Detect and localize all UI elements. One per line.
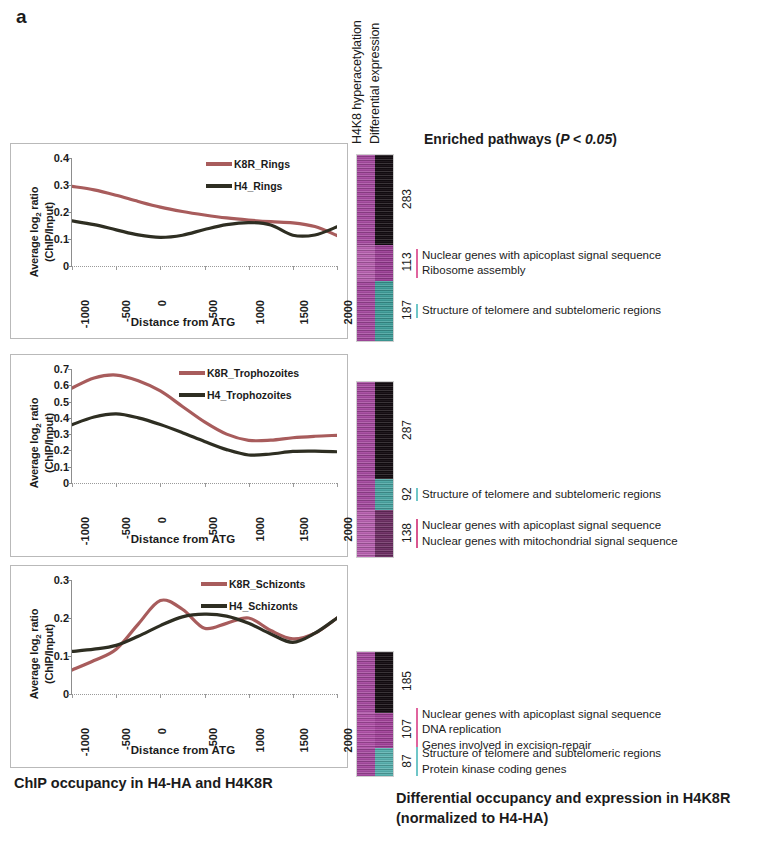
heatmap-segment-hyperacetylation <box>357 713 375 748</box>
x-tick-mark <box>160 694 161 698</box>
y-ticklabels-schizonts: 0.30.20.10 <box>39 580 69 694</box>
legend-label: H4_Rings <box>234 180 282 192</box>
x-axis-title-trophozoites: Distance from ATG <box>33 533 333 545</box>
heatmap-segment-differential-expression <box>375 713 393 748</box>
legend-item: K8R_Trophozoites <box>179 367 299 379</box>
heatmap-segment-hyperacetylation <box>357 382 375 479</box>
legend-schizonts: K8R_SchizontsH4_Schizonts <box>201 578 305 622</box>
x-ticklabels-trophozoites: -1000-5000500100015002000 <box>71 489 336 529</box>
y-tick-mark <box>68 618 72 619</box>
group-count-label: 287 <box>400 417 414 443</box>
caption-right-line1: Differential occupancy and expression in… <box>396 788 766 808</box>
group-color-bar <box>416 747 418 776</box>
y-tick-label: 0.3 <box>54 179 69 191</box>
x-tick-mark <box>337 694 338 698</box>
x-tick-mark <box>72 266 73 270</box>
enriched-title-pvalue: P < 0.05 <box>560 131 612 147</box>
heatmap-segment-differential-expression <box>375 382 393 479</box>
y-tick-label: 0.4 <box>54 152 69 164</box>
x-tick-mark <box>72 483 73 487</box>
heatmap-column-differential-expression <box>375 652 393 776</box>
heatmap-column-hyperacetylation <box>357 382 375 557</box>
caption-chip-occupancy: ChIP occupancy in H4-HA and H4K8R <box>14 775 273 791</box>
x-tick-mark <box>249 266 250 270</box>
x-axis-title-rings: Distance from ATG <box>33 316 333 328</box>
heatmap-segment-differential-expression <box>375 479 393 510</box>
y-tick-label: 0.6 <box>54 379 69 391</box>
pathway-list: Nuclear genes with apicoplast signal seq… <box>422 518 678 549</box>
x-tick-mark <box>293 694 294 698</box>
y-tick-mark <box>68 185 72 186</box>
heatmap-segment-hyperacetylation <box>357 281 375 341</box>
pathway-list: Structure of telomere and subtelomeric r… <box>422 746 661 777</box>
heatmap-segment-hyperacetylation <box>357 155 375 245</box>
legend-label: K8R_Schizonts <box>229 578 305 590</box>
x-axis-title-schizonts: Distance from ATG <box>33 744 333 756</box>
pathway-item: Nuclear genes with apicoplast signal seq… <box>422 707 661 723</box>
x-tick-label: 0 <box>156 517 168 523</box>
x-tick-mark <box>205 694 206 698</box>
group-count-label: 107 <box>400 716 414 742</box>
y-tick-mark <box>68 385 72 386</box>
group-count-label: 87 <box>400 748 414 774</box>
heatmap-rings <box>357 155 393 341</box>
heatmap-schizonts <box>357 652 393 776</box>
y-tick-label: 0.3 <box>54 574 69 586</box>
x-tick-mark <box>160 483 161 487</box>
caption-differential-occupancy: Differential occupancy and expression in… <box>396 788 766 828</box>
pathway-item: Nuclear genes with apicoplast signal seq… <box>422 518 678 534</box>
legend-label: K8R_Trophozoites <box>207 367 299 379</box>
x-tick-label: 0 <box>156 728 168 734</box>
y-ticklabels-rings: 0.40.30.20.10 <box>39 158 69 266</box>
y-tick-mark <box>68 402 72 403</box>
heatmap-header-h4k8-hyperacetylation: H4K8 hyperacetylation <box>350 20 364 144</box>
legend-item: H4_Schizonts <box>201 600 305 612</box>
x-ticklabels-schizonts: -1000-5000500100015002000 <box>71 700 336 740</box>
chart-panel-schizonts: Average log2 ratio (ChIP/Input) 0.30.20.… <box>10 565 348 768</box>
legend-swatch <box>201 582 227 586</box>
x-tick-label: 2000 <box>342 728 354 752</box>
group-count-label: 113 <box>400 249 414 275</box>
heatmap-segment-differential-expression <box>375 510 393 557</box>
enriched-title-prefix: Enriched pathways ( <box>424 131 560 147</box>
x-tick-mark <box>205 483 206 487</box>
x-tick-mark <box>337 483 338 487</box>
legend-rings: K8R_RingsH4_Rings <box>206 158 290 202</box>
y-tick-mark <box>68 656 72 657</box>
legend-item: H4_Trophozoites <box>179 389 299 401</box>
pathway-list: Nuclear genes with apicoplast signal seq… <box>422 248 661 279</box>
line-chart-rings <box>72 158 337 266</box>
heatmap-column-differential-expression <box>375 155 393 341</box>
heatmap-header-differential-expression: Differential expression <box>368 23 382 144</box>
heatmap-segment-hyperacetylation <box>357 652 375 713</box>
y-tick-label: 0.1 <box>54 650 69 662</box>
x-tick-mark <box>249 694 250 698</box>
y-ticklabels-trophozoites: 0.70.60.50.40.30.20.10 <box>39 369 69 483</box>
group-count-label: 138 <box>400 520 414 546</box>
legend-swatch <box>206 184 232 188</box>
y-tick-label: 0.1 <box>54 233 69 245</box>
x-ticklabels-rings: -1000-5000500100015002000 <box>71 272 336 312</box>
heatmap-segment-hyperacetylation <box>357 510 375 557</box>
heatmap-segment-hyperacetylation <box>357 245 375 281</box>
legend-label: H4_Trophozoites <box>207 389 292 401</box>
x-tick-label: 2000 <box>342 517 354 541</box>
pathway-list: Structure of telomere and subtelomeric r… <box>422 487 661 503</box>
legend-trophozoites: K8R_TrophozoitesH4_Trophozoites <box>179 367 299 411</box>
plot-area-rings <box>71 158 337 267</box>
x-tick-mark <box>249 483 250 487</box>
heatmap-segment-differential-expression <box>375 652 393 713</box>
y-tick-label: 0.2 <box>54 612 69 624</box>
group-color-bar <box>416 249 418 278</box>
x-tick-mark <box>293 483 294 487</box>
x-tick-mark <box>337 266 338 270</box>
x-tick-mark <box>160 266 161 270</box>
y-tick-mark <box>68 418 72 419</box>
pathway-item: Structure of telomere and subtelomeric r… <box>422 487 661 503</box>
y-tick-mark <box>68 450 72 451</box>
y-tick-mark <box>68 239 72 240</box>
x-tick-mark <box>116 483 117 487</box>
y-tick-mark <box>68 580 72 581</box>
x-tick-mark <box>293 266 294 270</box>
x-tick-mark <box>72 694 73 698</box>
